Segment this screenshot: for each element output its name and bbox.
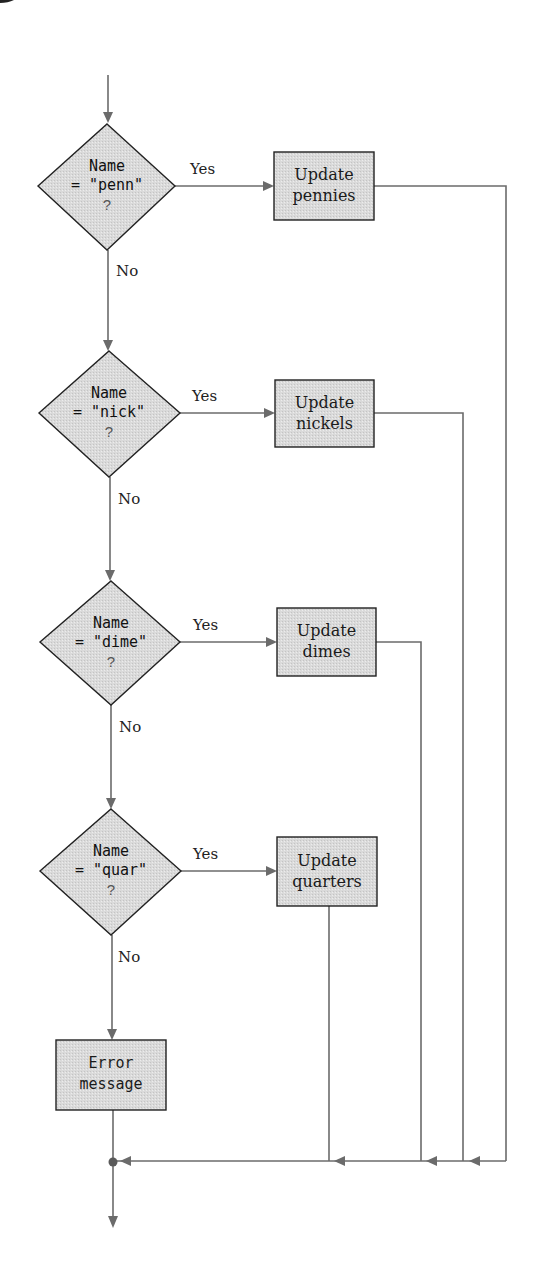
decision-quar-question: ? (56, 880, 166, 899)
process-nickels-line1: Update (275, 392, 374, 413)
yes-label-dime: Yes (193, 616, 218, 634)
decision-penn-line2: = "penn" (52, 176, 162, 195)
decision-nick-line2: = "nick" (54, 403, 164, 422)
process-quarters-label: Update quarters (277, 850, 377, 892)
decision-nick-line1: Name (54, 384, 164, 403)
process-nickels-line2: nickels (275, 413, 374, 434)
decision-dime-line1: Name (56, 614, 166, 633)
process-pennies-label: Update pennies (274, 164, 374, 206)
decision-dime-label: Name = "dime" ? (56, 614, 166, 671)
decision-penn-line1: Name (52, 157, 162, 176)
decision-nick-label: Name = "nick" ? (54, 384, 164, 441)
process-dimes-line1: Update (277, 620, 376, 641)
decision-dime-question: ? (56, 652, 166, 671)
error-message-label: Error message (56, 1053, 166, 1095)
decision-nick-question: ? (54, 422, 164, 441)
flowchart-canvas: Name = "penn" ? Name = "nick" ? Name = "… (0, 0, 534, 1276)
process-pennies-line1: Update (274, 164, 374, 185)
no-label-penn: No (116, 262, 138, 280)
decision-penn-question: ? (52, 195, 162, 214)
no-label-quar: No (118, 948, 140, 966)
yes-label-quar: Yes (193, 845, 218, 863)
yes-label-penn: Yes (190, 160, 215, 178)
yes-label-nick: Yes (192, 387, 217, 405)
process-nickels-label: Update nickels (275, 392, 374, 434)
decision-quar-label: Name = "quar" ? (56, 842, 166, 899)
process-dimes-line2: dimes (277, 641, 376, 662)
process-quarters-line2: quarters (277, 871, 377, 892)
scan-artifact (0, 0, 14, 3)
error-message-line1: Error (56, 1053, 166, 1074)
decision-quar-line1: Name (56, 842, 166, 861)
no-label-dime: No (119, 718, 141, 736)
no-label-nick: No (118, 490, 140, 508)
decision-quar-line2: = "quar" (56, 861, 166, 880)
process-dimes-label: Update dimes (277, 620, 376, 662)
error-message-line2: message (56, 1074, 166, 1095)
process-pennies-line2: pennies (274, 185, 374, 206)
decision-dime-line2: = "dime" (56, 633, 166, 652)
merge-point (109, 1158, 118, 1167)
process-quarters-line1: Update (277, 850, 377, 871)
decision-penn-label: Name = "penn" ? (52, 157, 162, 214)
